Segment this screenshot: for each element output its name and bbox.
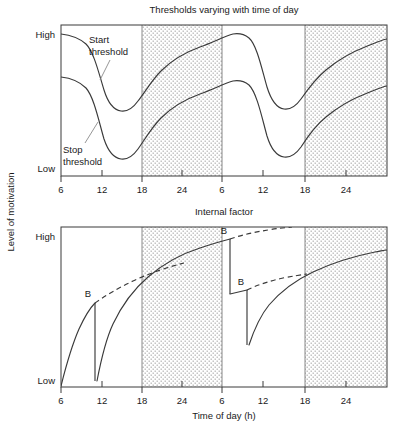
x-tick-label: 12	[97, 395, 108, 406]
y-label-low-bottom: Low	[38, 375, 56, 386]
night-band	[142, 227, 222, 387]
x-tick-label: 24	[177, 395, 188, 406]
x-tick-label: 12	[258, 184, 269, 195]
x-tick-label: 24	[341, 184, 352, 195]
stop-threshold-label-line1: Stop	[63, 144, 83, 155]
x-tick-label: 18	[137, 395, 148, 406]
panel-thresholds: Thresholds varying with time of day Star…	[35, 4, 387, 195]
x-tick-label: 18	[300, 184, 311, 195]
behaviour-event-label-3: B	[238, 276, 244, 287]
internal-factor-segment-2b	[230, 290, 247, 294]
hypothetical-continuation-2	[230, 227, 292, 239]
y-label-low-top: Low	[38, 163, 56, 174]
start-threshold-label-line1: Start	[89, 34, 109, 45]
behaviour-event-label-1: B	[85, 288, 91, 299]
panel-title-internal-factor: Internal factor	[195, 206, 253, 217]
hypothetical-continuation-3	[247, 274, 307, 290]
y-axis-title: Level of motivation	[5, 172, 16, 251]
x-tick-label: 6	[58, 184, 63, 195]
panel-internal-factor: Internal factor	[35, 206, 387, 421]
start-threshold-label-line2: threshold	[89, 46, 128, 57]
x-tick-label: 6	[219, 184, 224, 195]
x-tick-label: 12	[258, 395, 269, 406]
behaviour-event-label-2: B	[221, 225, 227, 236]
x-tick-label: 6	[58, 395, 63, 406]
night-bands-bottom	[142, 227, 387, 387]
annotation-start-threshold: Start threshold	[89, 34, 128, 80]
x-tick-labels-top: 6 12 18 24 6 12 18 24	[58, 184, 351, 195]
x-tick-label: 6	[219, 395, 224, 406]
night-band	[305, 25, 387, 176]
x-tick-labels-bottom: 6 12 18 24 6 12 18 24	[58, 395, 351, 406]
start-threshold-leader	[100, 60, 110, 80]
internal-factor-segment-1	[61, 303, 95, 386]
stop-threshold-leader	[85, 122, 98, 143]
panel-title-thresholds: Thresholds varying with time of day	[150, 4, 299, 15]
figure-root: Level of motivation Thresholds varying w…	[0, 0, 398, 424]
x-axis-title: Time of day (h)	[192, 410, 256, 421]
x-tick-label: 24	[177, 184, 188, 195]
x-tick-label: 18	[300, 395, 311, 406]
y-label-high-top: High	[35, 29, 55, 40]
stop-threshold-label-line2: threshold	[63, 156, 102, 167]
annotation-stop-threshold: Stop threshold	[63, 122, 102, 167]
figure-canvas: Level of motivation Thresholds varying w…	[0, 0, 398, 424]
y-label-high-bottom: High	[35, 231, 55, 242]
night-band	[305, 227, 387, 387]
night-band	[142, 25, 222, 176]
x-tick-label: 18	[137, 184, 148, 195]
x-tick-label: 24	[341, 395, 352, 406]
x-tick-label: 12	[97, 184, 108, 195]
